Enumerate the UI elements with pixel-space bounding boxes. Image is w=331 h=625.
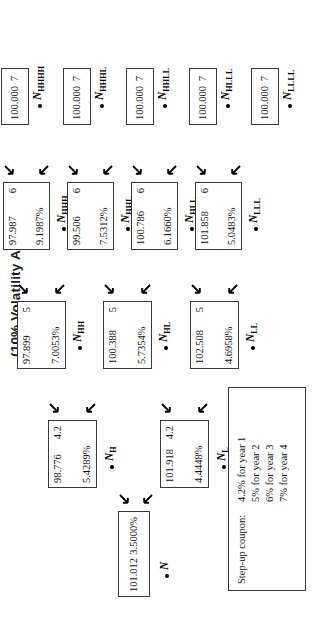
node-value-nhhh: 97.987 [8, 216, 19, 245]
node-rate-nhhl: 7.5312% [99, 207, 110, 245]
node-value-nhl: 100.388 [108, 330, 119, 364]
node-box-nhhll: 100.000 7 [126, 68, 154, 125]
branch-arrow-down-nhll [165, 164, 178, 177]
branch-arrow-up-nl [160, 402, 173, 415]
node-marker-nhhl [126, 227, 130, 231]
legend-title: Step-up coupon: [236, 515, 247, 584]
node-marker-nl [222, 465, 226, 469]
node-coupon-nhh: 5 [22, 307, 33, 312]
node-marker-nhl [164, 346, 168, 350]
legend-line-year4: 7% for year 4 [278, 448, 289, 502]
node-box-nhhl: 99.506 6 7.5312% [67, 182, 114, 250]
node-box-nh: 98.776 4.2 5.4289% [48, 420, 97, 488]
node-coupon-nhhhl: 7 [72, 76, 83, 81]
step-up-coupon-legend: Step-up coupon: 4.2% for year 1 5% for y… [228, 387, 306, 591]
node-coupon-nhhh: 6 [8, 188, 19, 193]
node-rate-nll: 4.6958% [224, 326, 235, 364]
node-rate-nl: 4.4448% [194, 445, 205, 483]
node-coupon-nl: 4.2 [165, 426, 176, 439]
node-label-nh: NH [103, 446, 118, 461]
branch-arrow-down-nhhl [101, 164, 114, 177]
node-value-nlll: 101.858 [200, 211, 211, 245]
node-label-nhl: NHL [157, 322, 172, 342]
node-rate-nh: 5.4289% [82, 445, 93, 483]
node-coupon-nhll: 6 [136, 188, 147, 193]
branch-arrow-up-nh [48, 402, 61, 415]
node-label-nll: NLL [244, 323, 259, 342]
node-box-n: 101.012 3.5000% [118, 511, 150, 597]
tree-diagram: (10% Volatility Assumed) N 101.012 3.500… [0, 0, 331, 625]
node-rate-nhl: 5.7354% [137, 326, 148, 364]
node-coupon-nhlll: 7 [198, 76, 209, 81]
node-box-nhll: 100.786 6 6.1660% [131, 182, 178, 250]
node-value-nhhhh: 100.000 [10, 86, 21, 120]
node-box-nhh: 97.899 5 7.0053% [17, 301, 66, 369]
node-rate-n: 3.5000% [129, 517, 140, 555]
node-coupon-nhl: 5 [108, 307, 119, 312]
branch-arrow-down-nhl [139, 283, 152, 296]
node-label-nlll: NLLL [247, 198, 262, 223]
node-value-nhhl: 99.506 [72, 216, 83, 245]
node-value-nhhhl: 100.000 [72, 86, 83, 120]
node-box-nll: 102.508 5 4.6958% [190, 301, 239, 369]
node-coupon-nlll: 6 [200, 188, 211, 193]
node-rate-nhh: 7.0053% [51, 326, 62, 364]
branch-arrow-up-nhh [17, 283, 30, 296]
node-coupon-nh: 4.2 [53, 426, 64, 439]
node-coupon-nll: 5 [195, 307, 206, 312]
node-label-nhh: NHH [71, 321, 86, 342]
branch-arrow-down-n [141, 493, 154, 506]
node-label-nhhhh: NHHHH [31, 66, 46, 100]
node-box-nllll: 100.000 7 [251, 68, 279, 125]
node-rate-nhhh: 9.1987% [35, 207, 46, 245]
node-box-nhhhl: 100.000 7 [63, 68, 91, 125]
node-marker-nhh [78, 346, 82, 350]
node-value-nl: 101.918 [165, 449, 176, 483]
node-value-nhlll: 100.000 [198, 86, 209, 120]
node-rate-nlll: 5.0483% [227, 207, 238, 245]
branch-arrow-down-nhhh [37, 164, 50, 177]
node-marker-nhll [190, 227, 194, 231]
node-marker-n [165, 574, 169, 578]
node-marker-nhhll [163, 104, 167, 108]
legend-line-year1: 4.2% for year 1 [236, 448, 247, 502]
node-marker-nhhh [62, 227, 66, 231]
rotated-figure-canvas: (10% Volatility Assumed) N 101.012 3.500… [0, 0, 331, 625]
branch-arrow-down-nll [226, 283, 239, 296]
node-box-nhhh: 97.987 6 9.1987% [3, 182, 50, 250]
branch-arrow-down-nlll [229, 164, 242, 177]
node-box-nlll: 101.858 6 5.0483% [195, 182, 242, 250]
node-value-nhh: 97.899 [22, 335, 33, 364]
node-marker-nh [110, 465, 114, 469]
node-value-nh: 98.776 [53, 454, 64, 483]
branch-arrow-up-nhhl [67, 164, 80, 177]
node-marker-nll [251, 346, 255, 350]
branch-arrow-up-nhll [131, 164, 144, 177]
node-label-nhhhl: NHHHL [93, 67, 108, 100]
branch-arrow-up-nll [190, 283, 203, 296]
node-marker-nhhhh [38, 104, 42, 108]
branch-arrow-up-nhl [103, 283, 116, 296]
node-box-nhhhh: 100.000 7 [1, 68, 29, 125]
node-coupon-nhhll: 7 [135, 76, 146, 81]
node-label-n: N [158, 562, 173, 570]
branch-arrow-down-nh [84, 402, 97, 415]
branch-arrow-down-nhh [53, 283, 66, 296]
node-marker-nlll [254, 227, 258, 231]
legend-line-year3: 6% for year 3 [264, 448, 275, 502]
node-value-nhll: 100.786 [136, 211, 147, 245]
node-marker-nhlll [226, 104, 230, 108]
node-value-nll: 102.508 [195, 330, 206, 364]
node-value-nhhll: 100.000 [135, 86, 146, 120]
node-value-n: 101.012 [129, 558, 140, 592]
node-box-nhl: 100.388 5 5.7354% [103, 301, 152, 369]
legend-line-year2: 5% for year 2 [250, 448, 261, 502]
node-coupon-nllll: 7 [260, 76, 271, 81]
node-box-nl: 101.918 4.2 4.4448% [160, 420, 209, 488]
branch-arrow-up-n [118, 493, 131, 506]
node-label-nhhll: NHHLL [156, 68, 171, 100]
node-label-nhlll: NHLLL [219, 69, 234, 100]
branch-arrow-down-nl [196, 402, 209, 415]
node-marker-nhhhl [100, 104, 104, 108]
branch-arrow-up-nhhh [3, 164, 16, 177]
